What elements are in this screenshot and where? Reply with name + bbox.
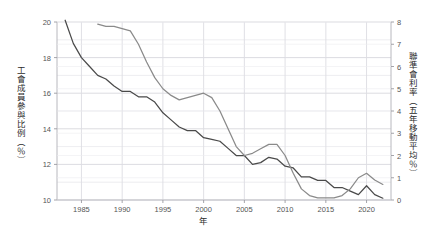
y-tick-label-left: 16	[31, 89, 51, 98]
y-tick-label-right: 6	[397, 62, 401, 71]
y-tick-label-right: 8	[397, 18, 401, 27]
y-tick-label-right: 5	[397, 84, 401, 93]
chart-figure: 工會成員參與比例（％） 聯準會利率（五年移動平均％） 年 19851990199…	[0, 0, 434, 240]
x-tick-label: 1995	[155, 205, 172, 214]
chart-plot-area	[0, 0, 434, 240]
y-tick-label-right: 4	[397, 107, 401, 116]
y-tick-label-left: 10	[31, 196, 51, 205]
series-line-0	[65, 20, 383, 198]
y-tick-label-left: 12	[31, 160, 51, 169]
y-tick-label-right: 0	[397, 196, 401, 205]
axis-ticks	[54, 22, 394, 203]
x-tick-label: 2020	[358, 205, 375, 214]
y-tick-label-right: 1	[397, 173, 401, 182]
y-tick-label-left: 20	[31, 18, 51, 27]
y-tick-label-left: 18	[31, 53, 51, 62]
x-tick-label: 2015	[317, 205, 334, 214]
y-axis-right-title: 聯準會利率（五年移動平均％）	[406, 22, 416, 208]
y-tick-label-right: 2	[397, 151, 401, 160]
x-axis-title: 年	[199, 214, 208, 226]
x-tick-label: 1990	[114, 205, 131, 214]
x-tick-label: 1985	[73, 205, 90, 214]
y-tick-label-right: 7	[397, 40, 401, 49]
x-tick-label: 2000	[195, 205, 212, 214]
data-series	[65, 20, 383, 198]
y-tick-label-left: 14	[31, 124, 51, 133]
x-tick-label: 2010	[277, 205, 294, 214]
y-tick-label-right: 3	[397, 129, 401, 138]
x-tick-label: 2005	[236, 205, 253, 214]
y-axis-left-title: 工會成員參與比例（％）	[14, 36, 24, 194]
